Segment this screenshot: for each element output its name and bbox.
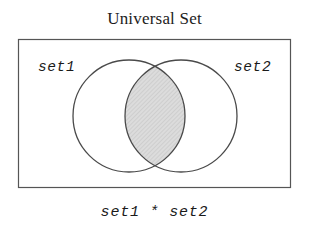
set1-label: set1 xyxy=(38,59,75,75)
set2-label: set2 xyxy=(234,59,271,75)
diagram-caption: set1 * set2 xyxy=(101,204,209,221)
venn-diagram-figure: Universal Set set1 set2 set1 xyxy=(0,0,309,231)
venn-canvas: set1 set2 set1 * set2 xyxy=(0,0,309,231)
